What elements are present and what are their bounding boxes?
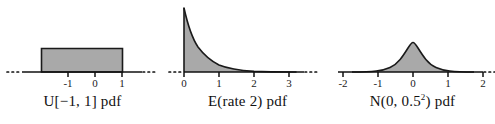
x-tick-label: 0 <box>401 77 425 89</box>
x-tick-label: 3 <box>277 77 301 89</box>
probability-density-figure: -1 0 1 U[−1, 1] pdf 0 1 2 3 E(rat <box>0 0 495 124</box>
x-tick-label: -1 <box>366 77 390 89</box>
x-tick-label: -2 <box>331 77 355 89</box>
uniform-density-region <box>42 49 123 73</box>
exponential-density-region <box>184 8 296 72</box>
x-tick-label: 2 <box>471 77 495 89</box>
normal-density-region <box>352 43 474 73</box>
x-tick-label: 1 <box>110 77 134 89</box>
x-tick-label: -1 <box>56 77 80 89</box>
panel-uniform-pdf: -1 0 1 U[−1, 1] pdf <box>0 0 165 124</box>
panel-exponential-pdf: 0 1 2 3 E(rate 2) pdf <box>165 0 330 124</box>
x-tick-label: 0 <box>83 77 107 89</box>
panel-caption-exponential: E(rate 2) pdf <box>165 92 330 110</box>
panel-caption-normal-lead: N(0, 0.5 <box>370 93 421 109</box>
panel-caption-uniform: U[−1, 1] pdf <box>0 92 165 110</box>
x-tick-label: 0 <box>172 77 196 89</box>
x-tick-label: 1 <box>436 77 460 89</box>
x-tick-label: 1 <box>207 77 231 89</box>
x-tick-label: 2 <box>242 77 266 89</box>
panel-normal-pdf: -2 -1 0 1 2 N(0, 0.52) pdf <box>330 0 495 124</box>
panel-caption-normal: N(0, 0.52) pdf <box>330 92 495 110</box>
panel-caption-normal-tail: ) pdf <box>426 93 456 109</box>
